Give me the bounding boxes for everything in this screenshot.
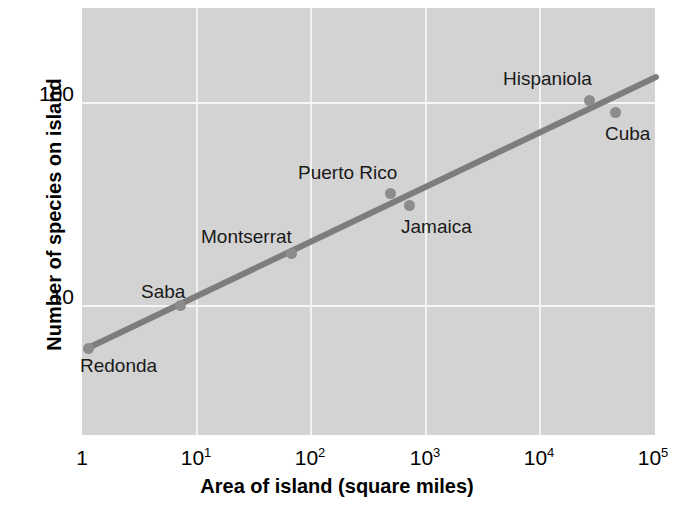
x-tick-10e4-exp: 4 (547, 445, 554, 460)
x-tick-10e5-base: 10 (638, 446, 661, 469)
x-tick-10e2: 102 (295, 446, 326, 470)
y-axis-title: Number of species on island (43, 55, 66, 375)
trendline (88, 77, 656, 348)
x-axis-title: Area of island (square miles) (0, 475, 674, 498)
species-area-chart: islands are islands. The Caribbeanspecie… (0, 0, 674, 506)
data-point-jamaica[interactable] (404, 200, 415, 211)
point-label-redonda: Redonda (80, 355, 157, 377)
x-tick-10e4-base: 10 (524, 446, 547, 469)
point-label-saba: Saba (141, 281, 185, 303)
point-label-cuba: Cuba (605, 123, 650, 145)
x-tick-10e1-base: 10 (181, 446, 204, 469)
x-tick-10e3-base: 10 (410, 446, 433, 469)
point-label-montserrat: Montserrat (201, 226, 292, 248)
x-tick-10e3-exp: 3 (433, 445, 440, 460)
x-tick-10e2-exp: 2 (318, 445, 325, 460)
point-label-hispaniola: Hispaniola (503, 68, 592, 90)
point-label-puerto-rico: Puerto Rico (298, 162, 397, 184)
point-label-jamaica: Jamaica (401, 216, 472, 238)
data-point-redonda[interactable] (83, 343, 94, 354)
x-tick-10e4: 104 (524, 446, 555, 470)
x-tick-10e5: 105 (638, 446, 669, 470)
x-tick-10e3: 103 (410, 446, 441, 470)
data-point-puerto-rico[interactable] (385, 188, 396, 199)
data-point-cuba[interactable] (610, 107, 621, 118)
x-tick-10e2-base: 10 (295, 446, 318, 469)
data-point-hispaniola[interactable] (584, 95, 595, 106)
x-tick-10e1: 101 (181, 446, 212, 470)
x-tick-10e5-exp: 5 (661, 445, 668, 460)
x-tick-1-base: 1 (76, 446, 88, 469)
x-tick-10e1-exp: 1 (204, 445, 211, 460)
data-point-montserrat[interactable] (286, 248, 297, 259)
x-tick-1: 1 (76, 446, 88, 470)
